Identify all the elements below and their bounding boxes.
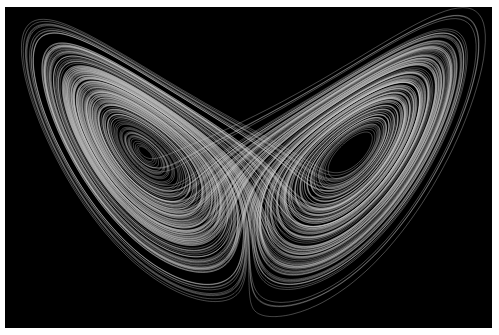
lorenz-attractor-image <box>5 7 492 328</box>
attractor-trajectories <box>5 7 492 328</box>
